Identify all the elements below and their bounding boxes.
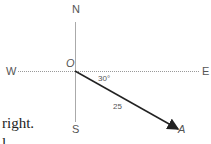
magnitude-label: 25	[113, 103, 122, 111]
vector-oa	[75, 71, 178, 129]
north-label: N	[72, 4, 80, 15]
east-label: E	[202, 66, 209, 77]
south-label: S	[72, 124, 79, 135]
text-fragment-line2: l	[2, 136, 6, 144]
endpoint-a-label: A	[178, 124, 185, 135]
angle-label: 30°	[98, 75, 110, 83]
origin-label: O	[66, 58, 75, 69]
text-fragment-line1: right.	[2, 116, 34, 131]
west-label: W	[6, 66, 16, 77]
